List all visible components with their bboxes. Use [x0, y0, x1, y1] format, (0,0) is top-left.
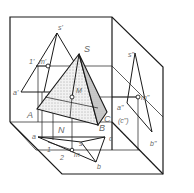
label-s-double-prime: s"	[128, 51, 135, 58]
label-1-prime: 1'	[29, 58, 35, 65]
label-m: m	[74, 151, 80, 158]
point-M	[70, 95, 74, 99]
h-plane-right-diagonal	[112, 122, 163, 174]
label-N: N	[58, 125, 65, 135]
label-a-double-prime: a"	[117, 104, 124, 111]
label-B: B	[99, 123, 105, 133]
label-m-double-prime: m"	[141, 94, 150, 101]
label-b-double-prime: b"	[150, 140, 157, 147]
side-projection	[127, 53, 152, 132]
projection-diagram: s' 1' m' a' S M A N B C s" m" a" (c") b"…	[0, 0, 194, 193]
label-b: b	[97, 163, 101, 170]
label-s: s	[79, 140, 83, 147]
label-a: a	[32, 133, 36, 140]
label-M: M	[76, 87, 82, 94]
label-s-prime: s'	[58, 24, 64, 31]
side-view-triangle	[127, 53, 152, 132]
top-view-edge-s-c	[81, 137, 105, 142]
label-c-double-prime: (c")	[118, 117, 129, 125]
label-m-prime: m'	[39, 58, 47, 65]
label-c: c	[109, 135, 113, 142]
label-S: S	[84, 44, 90, 54]
label-A: A	[26, 110, 33, 120]
label-2: 2	[59, 154, 64, 161]
point-m-double-prime	[136, 95, 140, 99]
label-1: 1	[47, 146, 51, 153]
label-C: C	[104, 114, 111, 124]
label-a-prime: a'	[13, 89, 19, 96]
point-m-prime	[46, 64, 50, 68]
top-view-line-1-m	[48, 142, 72, 150]
